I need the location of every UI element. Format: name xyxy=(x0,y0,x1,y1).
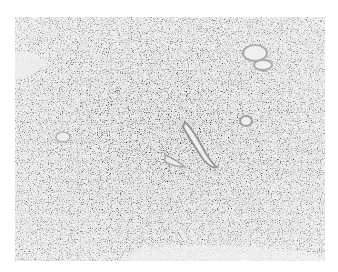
histology-micrograph xyxy=(15,17,325,261)
micrograph-image xyxy=(15,17,325,261)
